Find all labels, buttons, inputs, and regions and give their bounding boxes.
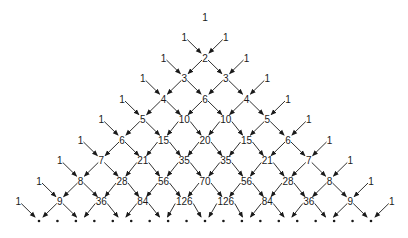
arrow-icon <box>209 163 220 177</box>
arrow-icon <box>211 142 222 156</box>
arrow-icon <box>209 204 217 218</box>
triangle-entry: 15 <box>241 135 253 146</box>
triangle-entry: 36 <box>96 196 108 207</box>
arrow-icon <box>105 183 116 197</box>
arrow-icon <box>63 163 77 177</box>
arrow-icon <box>146 122 160 136</box>
arrow-icon <box>167 101 181 115</box>
arrow-icon <box>146 81 160 95</box>
arrow-icon <box>232 122 243 136</box>
triangle-entry: 5 <box>264 114 270 125</box>
arrow-icon <box>229 81 243 95</box>
triangle-entry: 20 <box>199 135 211 146</box>
arrow-icon <box>105 142 119 156</box>
triangle-entry: 70 <box>199 176 211 187</box>
arrow-icon <box>209 122 220 136</box>
continuation-dot <box>148 220 151 223</box>
arrow-icon <box>235 204 243 218</box>
continuation-dot <box>333 220 336 223</box>
arrow-icon <box>188 183 199 197</box>
arrow-icon <box>64 183 78 197</box>
arrow-icon <box>126 204 137 218</box>
arrow-icon <box>21 204 35 218</box>
arrow-icon <box>187 81 201 95</box>
arrow-icon <box>104 122 118 136</box>
pascal-triangle-diagram: 1111211331146411510105116152015611721353… <box>0 0 408 238</box>
continuation-dot <box>111 220 114 223</box>
triangle-entry: 1 <box>389 196 395 207</box>
arrow-icon <box>270 122 284 136</box>
continuation-dot <box>75 220 78 223</box>
arrow-icon <box>291 142 305 156</box>
triangle-entry: 35 <box>220 155 232 166</box>
triangle-entry: 8 <box>327 176 333 187</box>
continuation-dot <box>314 220 317 223</box>
continuation-dot <box>277 220 280 223</box>
arrow-icon <box>107 204 118 218</box>
triangle-entry: 21 <box>137 155 149 166</box>
triangle-entry: 1 <box>161 53 167 64</box>
arrow-icon <box>188 101 202 115</box>
triangle-entry: 10 <box>220 114 232 125</box>
arrow-icon <box>149 204 160 218</box>
arrow-icon <box>251 81 265 95</box>
arrow-icon <box>85 163 99 177</box>
arrow-icon <box>292 204 303 218</box>
arrow-icon <box>312 163 326 177</box>
arrow-icon <box>333 183 347 197</box>
arrow-icon <box>271 183 282 197</box>
triangle-entry: 4 <box>244 94 250 105</box>
continuation-dots <box>38 220 373 223</box>
arrow-icon <box>190 163 201 177</box>
continuation-dot <box>185 220 188 223</box>
triangle-entry: 1 <box>78 135 84 146</box>
triangle-entry: 126 <box>176 196 193 207</box>
triangle-entry: 28 <box>282 176 294 187</box>
continuation-dot <box>241 220 244 223</box>
triangle-entry: 2 <box>202 53 208 64</box>
triangle-entry: 3 <box>223 73 229 84</box>
arrow-icon <box>193 204 201 218</box>
continuation-dot <box>56 220 59 223</box>
arrow-icon <box>147 183 158 197</box>
triangle-entry: 1 <box>264 73 270 84</box>
triangle-entry: 126 <box>217 196 234 207</box>
arrow-icon <box>147 142 158 156</box>
arrow-icon <box>63 204 77 218</box>
triangle-entry: 35 <box>179 155 191 166</box>
arrow-icon <box>315 204 326 218</box>
arrow-icon <box>230 142 241 156</box>
triangle-entry: 6 <box>119 135 125 146</box>
arrow-icon <box>209 81 223 95</box>
arrow-icon <box>294 183 305 197</box>
triangle-entry: 1 <box>368 176 374 187</box>
triangle-entry: 6 <box>202 94 208 105</box>
triangle-entry: 56 <box>158 176 170 187</box>
arrow-icon <box>251 204 262 218</box>
arrow-icon <box>208 101 222 115</box>
arrow-icon <box>273 163 284 177</box>
arrow-icon <box>250 101 264 115</box>
triangle-entry: 1 <box>57 155 63 166</box>
arrow-icon <box>273 204 284 218</box>
triangle-entry: 10 <box>179 114 191 125</box>
triangle-entry: 84 <box>262 196 274 207</box>
triangle-entry: 3 <box>181 73 187 84</box>
triangle-entry: 21 <box>262 155 274 166</box>
continuation-dot <box>167 220 170 223</box>
arrow-icon <box>253 183 264 197</box>
arrow-icon <box>84 183 98 197</box>
triangle-entry: 9 <box>57 196 63 207</box>
triangle-entry: 1 <box>140 73 146 84</box>
arrow-icon <box>211 183 222 197</box>
arrow-icon <box>125 101 139 115</box>
arrow-icon <box>104 163 118 177</box>
continuation-dot <box>351 220 354 223</box>
triangle-entry: 36 <box>303 196 315 207</box>
triangle-entry: 1 <box>98 114 104 125</box>
triangle-entry: 1 <box>327 135 333 146</box>
arrow-icon <box>354 183 368 197</box>
triangle-entry: 1 <box>347 155 353 166</box>
triangle-entry: 1 <box>244 53 250 64</box>
triangle-entry: 8 <box>78 176 84 187</box>
